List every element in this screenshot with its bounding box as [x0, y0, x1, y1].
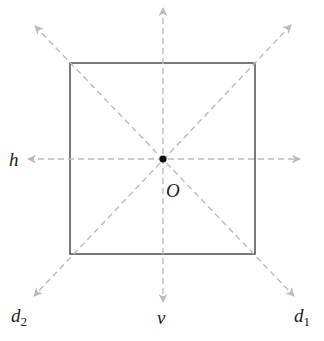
- label-h: h: [9, 150, 19, 169]
- symmetry-diagram: [0, 0, 324, 341]
- center-point: [159, 155, 166, 162]
- label-d1: d1: [294, 306, 310, 328]
- label-d2: d2: [11, 306, 27, 328]
- label-v: v: [157, 308, 165, 327]
- label-center-O: O: [166, 181, 180, 200]
